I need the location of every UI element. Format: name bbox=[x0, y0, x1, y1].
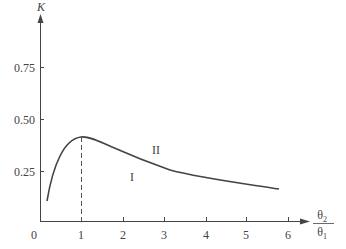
x-tick-label-6: 6 bbox=[285, 228, 291, 242]
svg-text:θ2: θ2 bbox=[317, 208, 327, 224]
y-axis-arrow-icon bbox=[38, 14, 44, 23]
y-tick-label-025: 0.25 bbox=[14, 165, 35, 179]
region-label-I: I bbox=[130, 170, 134, 184]
x-tick-label-2: 2 bbox=[120, 228, 126, 242]
y-tick-label-075: 0.75 bbox=[14, 61, 35, 75]
x-ticks bbox=[82, 217, 289, 221]
chart-svg: 0.75 0.50 0.25 K 0 1 2 3 4 5 6 θ2 θ1 bbox=[0, 0, 346, 249]
y-axis-label: K bbox=[36, 0, 46, 14]
x-tick-label-4: 4 bbox=[203, 228, 209, 242]
x-tick-label-5: 5 bbox=[243, 228, 249, 242]
x-tick-label-3: 3 bbox=[161, 228, 167, 242]
chart-container: 0.75 0.50 0.25 K 0 1 2 3 4 5 6 θ2 θ1 bbox=[0, 0, 346, 249]
region-label-II: II bbox=[152, 143, 160, 157]
y-tick-label-050: 0.50 bbox=[14, 113, 35, 127]
svg-text:θ1: θ1 bbox=[317, 225, 327, 241]
x-axis-label: θ2 θ1 bbox=[313, 208, 334, 241]
origin-label: 0 bbox=[31, 228, 37, 242]
x-axis-arrow-icon bbox=[300, 219, 310, 225]
x-tick-label-1: 1 bbox=[78, 228, 84, 242]
